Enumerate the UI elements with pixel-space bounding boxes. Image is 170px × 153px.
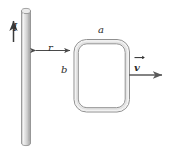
wire-top-cap — [22, 8, 31, 13]
vector-overarrow-icon — [134, 55, 141, 59]
straight-current-carrying-wire — [22, 8, 31, 145]
loop-height-label: b — [61, 65, 67, 75]
physics-figure-wire-and-loop: I r a b v — [0, 0, 170, 153]
velocity-vector-symbol: v — [134, 58, 140, 74]
loop-width-label: a — [98, 25, 104, 35]
velocity-letter: v — [134, 62, 140, 73]
velocity-label: v — [134, 58, 140, 74]
rectangular-conducting-loop — [74, 40, 130, 113]
current-label: I — [13, 22, 17, 33]
figure-canvas — [0, 0, 170, 153]
distance-label: r — [48, 43, 53, 53]
